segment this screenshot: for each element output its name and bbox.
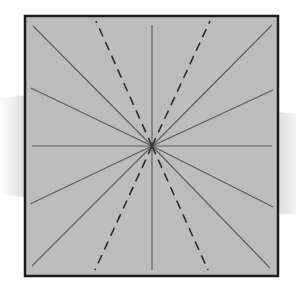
- ray-diagram: [0, 0, 296, 292]
